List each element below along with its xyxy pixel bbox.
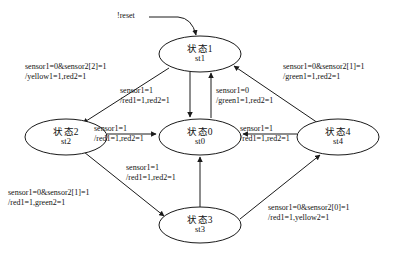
edge-action: /red1=1,red2=1	[126, 173, 176, 183]
edge-action: /red1=1,green2=1	[8, 198, 89, 208]
edge-action: /red1=1,red2=1	[240, 134, 290, 144]
edge-label-st3-to-st0: sensor1=1 /red1=1,red2=1	[126, 163, 176, 183]
edge-condition: sensor1=0&sensor2[1]=1	[8, 188, 89, 198]
state-node-st4[interactable]	[297, 119, 379, 155]
edge-condition: sensor1=0&sensor2[1]=1	[283, 62, 364, 72]
edge-condition: sensor1=0&sensor2[0]=1	[268, 203, 349, 213]
edge-label-st4-to-st0: sensor1=1 /red1=1,red2=1	[240, 124, 290, 144]
edge-st2-to-st3	[84, 152, 164, 216]
edge-label-st1-to-st0: sensor1=1 /red1=1,red2=1	[120, 86, 170, 106]
edge-condition: sensor1=1	[240, 124, 290, 134]
edge-action: /green1=1,red2=1	[216, 96, 273, 106]
edge-action: /red1=1,yellow2=1	[268, 213, 349, 223]
edge-label-st2-to-st3: sensor1=0&sensor2[1]=1 /red1=1,green2=1	[8, 188, 89, 208]
edge-label-st1-to-st2: sensor1=0&sensor2[2]=1 /yellow1=1,red2=1	[25, 62, 106, 82]
edge-label-st3-to-st4: sensor1=0&sensor2[0]=1 /red1=1,yellow2=1	[268, 203, 349, 223]
reset-label: !reset	[117, 11, 135, 20]
edge-label-st0-to-st1: sensor1=0 /green1=1,red2=1	[216, 86, 273, 106]
edge-condition: sensor1=1	[120, 86, 170, 96]
edge-action: /yellow1=1,red2=1	[25, 72, 106, 82]
fsm-state-diagram: !reset 状态1 st1 状态2 st2 状态0 st0 状态4 st4 状…	[0, 0, 401, 258]
edge-label-st2-to-st0: sensor1=1 /red1=1,red2=1	[94, 124, 144, 144]
edge-action: /red1=1,red2=1	[120, 96, 170, 106]
state-node-st0[interactable]	[159, 119, 241, 155]
edge-action: /red1=1,red2=1	[94, 134, 144, 144]
edge-condition: sensor1=1	[94, 124, 144, 134]
edge-reset-to-st1	[149, 17, 196, 35]
edge-label-st4-to-st1: sensor1=0&sensor2[1]=1 /green1=1,red2=1	[283, 62, 364, 82]
edge-condition: sensor1=1	[126, 163, 176, 173]
state-node-st1[interactable]	[159, 36, 241, 72]
edge-action: /green1=1,red2=1	[283, 72, 364, 82]
state-node-st3[interactable]	[159, 207, 241, 243]
edge-condition: sensor1=0&sensor2[2]=1	[25, 62, 106, 72]
edge-condition: sensor1=0	[216, 86, 273, 96]
